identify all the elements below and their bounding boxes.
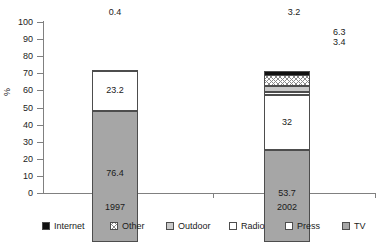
y-tick-100	[37, 22, 43, 23]
y-tick-80	[37, 56, 43, 57]
legend-swatch-internet-icon	[42, 222, 50, 230]
segment-label-1997-tv: 76.4	[93, 169, 137, 178]
y-tick-label-30: 30	[7, 138, 33, 147]
side-label-2002-outdoor: 3.4	[333, 37, 346, 47]
y-tick-label-50: 50	[7, 104, 33, 113]
legend-label-tv: TV	[354, 221, 366, 231]
segment-label-2002-press: 32	[265, 118, 309, 127]
bar-2002[interactable]: 53.7 32	[264, 71, 310, 242]
y-tick-90	[37, 39, 43, 40]
segment-2002-internet[interactable]	[264, 71, 310, 76]
legend-item-tv[interactable]: TV	[342, 221, 366, 231]
legend-label-internet: Internet	[54, 221, 85, 231]
y-tick-label-80: 80	[7, 52, 33, 61]
segment-1997-press[interactable]: 23.2	[92, 71, 138, 111]
top-label-1997-outdoor: 0.4	[85, 8, 145, 17]
bar-1997[interactable]: 76.4 23.2	[92, 71, 138, 242]
y-tick-label-100: 100	[7, 18, 33, 27]
y-tick-label-90: 90	[7, 35, 33, 44]
legend-label-radio: Radio	[241, 221, 265, 231]
y-tick-label-40: 40	[7, 121, 33, 130]
legend-label-other: Other	[122, 221, 145, 231]
legend-swatch-press-icon	[285, 222, 293, 230]
y-axis-line	[43, 21, 44, 194]
legend-label-outdoor: Outdoor	[178, 221, 211, 231]
segment-2002-radio[interactable]	[264, 92, 310, 95]
y-tick-50	[37, 108, 43, 109]
y-tick-70	[37, 73, 43, 74]
stacked-bar-chart: % 100 90 80 70 60 50 40 30 20 10 0 76.4 …	[0, 0, 389, 242]
legend-item-other[interactable]: Other	[110, 221, 145, 231]
legend-swatch-tv-icon	[342, 222, 350, 230]
y-tick-40	[37, 125, 43, 126]
y-tick-0	[37, 193, 43, 194]
legend-swatch-radio-icon	[229, 222, 237, 230]
y-tick-60	[37, 90, 43, 91]
legend-swatch-outdoor-icon	[166, 222, 174, 230]
y-tick-10	[37, 176, 43, 177]
segment-2002-other[interactable]	[264, 75, 310, 86]
segment-label-2002-tv: 53.7	[265, 189, 309, 198]
legend-item-press[interactable]: Press	[285, 221, 320, 231]
legend: Internet Other Outdoor Radio Press TV	[0, 221, 389, 235]
x-tick-middle	[213, 193, 214, 198]
legend-item-outdoor[interactable]: Outdoor	[166, 221, 211, 231]
legend-item-internet[interactable]: Internet	[42, 221, 85, 231]
legend-label-press: Press	[297, 221, 320, 231]
y-tick-30	[37, 142, 43, 143]
y-tick-label-10: 10	[7, 172, 33, 181]
category-label-2002: 2002	[252, 202, 322, 212]
top-label-2002-internet: 3.2	[264, 8, 324, 17]
side-label-2002-other: 6.3	[333, 27, 346, 37]
category-label-1997: 1997	[80, 202, 150, 212]
x-tick-end	[375, 193, 376, 198]
y-tick-label-60: 60	[7, 86, 33, 95]
segment-label-1997-press: 23.2	[93, 86, 137, 95]
legend-item-radio[interactable]: Radio	[229, 221, 265, 231]
segment-2002-outdoor[interactable]	[264, 86, 310, 92]
segment-2002-press[interactable]: 32	[264, 95, 310, 150]
y-tick-label-70: 70	[7, 69, 33, 78]
y-tick-label-0: 0	[7, 189, 33, 198]
legend-swatch-other-icon	[110, 222, 118, 230]
y-tick-label-20: 20	[7, 155, 33, 164]
y-tick-20	[37, 159, 43, 160]
segment-1997-outdoor[interactable]	[92, 70, 138, 72]
